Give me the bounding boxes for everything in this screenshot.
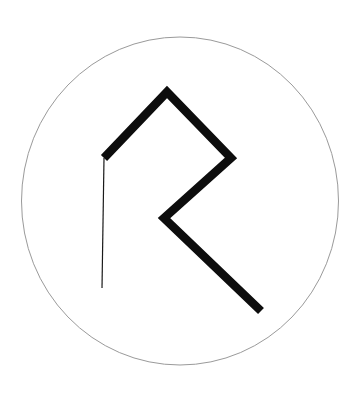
background-rect (0, 0, 359, 393)
rune-illustration (0, 0, 359, 393)
figure-canvas (0, 0, 359, 393)
